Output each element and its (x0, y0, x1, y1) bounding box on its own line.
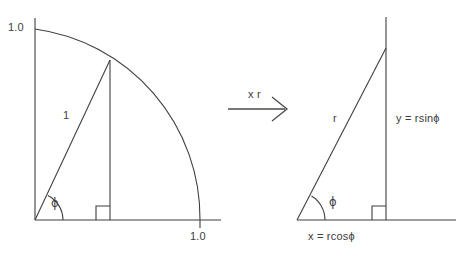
right-hypotenuse-line (297, 48, 386, 220)
right-horizontal-label: x = rcosϕ (308, 231, 355, 242)
unit-circle-arc (35, 29, 200, 220)
right-angle-label: ϕ (329, 197, 337, 209)
figure-vector-layer (0, 0, 461, 256)
left-hypotenuse-label: 1 (63, 110, 69, 121)
left-angle-label: ϕ (51, 198, 59, 210)
left-y-axis-label: 1.0 (8, 22, 24, 33)
scale-arrow-label: x r (248, 89, 261, 100)
right-right-angle-marker (372, 206, 386, 220)
right-angle-arc (312, 196, 326, 220)
transform-arrow-group (228, 97, 287, 121)
left-x-axis-label: 1.0 (190, 231, 206, 242)
left-right-angle-marker (96, 206, 110, 220)
left-radius-line (35, 60, 110, 220)
figure-canvas: 1.0 1.0 1 ϕ x r r y = rsinϕ x = rcosϕ ϕ (0, 0, 461, 256)
right-hypotenuse-label: r (333, 113, 337, 124)
right-vertical-label: y = rsinϕ (396, 113, 440, 124)
left-panel-group (35, 18, 221, 228)
